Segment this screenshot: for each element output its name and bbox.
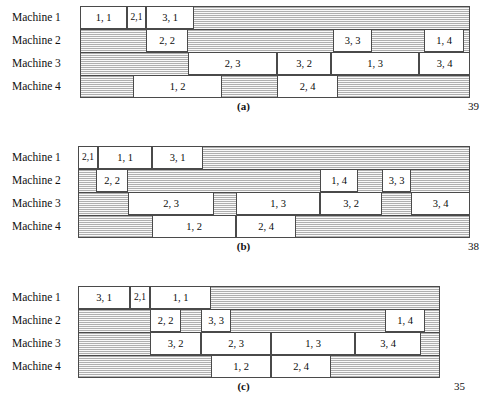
machine-row: Machine 32, 33, 21, 33, 4 (0, 52, 487, 75)
machine-row: Machine 22, 23, 31, 4 (0, 29, 487, 52)
panel-caption: (a) (0, 100, 487, 112)
makespan-value: 39 (468, 100, 479, 112)
machine-idle-track: 1, 22, 4 (78, 355, 440, 378)
operation-block: 1, 2 (152, 215, 236, 238)
operation-block: 2, 4 (271, 355, 331, 378)
machine-label: Machine 2 (0, 169, 72, 192)
operation-block: 1, 2 (211, 355, 271, 378)
operation-block: 2,1 (130, 286, 150, 309)
operation-block: 2, 4 (236, 215, 296, 238)
machine-idle-track: 1, 22, 4 (78, 215, 470, 238)
operation-block: 1, 4 (320, 169, 358, 192)
operation-block: 3, 3 (382, 169, 411, 192)
operation-block: 1, 3 (271, 332, 355, 355)
machine-label: Machine 4 (0, 355, 72, 378)
operation-block: 1, 1 (98, 146, 152, 169)
operation-block: 1, 3 (236, 192, 320, 215)
machine-label: Machine 2 (0, 29, 72, 52)
panel-caption-row: (b)38 (0, 238, 487, 258)
operation-block: 2, 2 (96, 169, 128, 192)
machine-idle-track: 2,11, 13, 1 (78, 146, 470, 169)
machine-label: Machine 1 (0, 6, 72, 29)
machine-label: Machine 1 (0, 286, 72, 309)
machine-row: Machine 12,11, 13, 1 (0, 146, 487, 169)
machine-rows: Machine 13, 12,11, 1Machine 22, 23, 31, … (0, 286, 487, 378)
operation-block: 3, 2 (277, 52, 331, 75)
operation-block: 3, 4 (355, 332, 421, 355)
gantt-figure-page: Machine 11, 12,13, 1Machine 22, 23, 31, … (0, 0, 487, 420)
machine-row: Machine 13, 12,11, 1 (0, 286, 487, 309)
operation-block: 2, 3 (201, 332, 271, 355)
machine-idle-track: 1, 22, 4 (80, 75, 470, 98)
machine-idle-track: 1, 12,13, 1 (80, 6, 470, 29)
operation-block: 3, 1 (146, 6, 194, 29)
machine-idle-track: 2, 23, 31, 4 (80, 29, 470, 52)
machine-rows: Machine 11, 12,13, 1Machine 22, 23, 31, … (0, 6, 487, 98)
operation-block: 2, 3 (128, 192, 214, 215)
operation-block: 3, 2 (150, 332, 201, 355)
operation-block: 1, 2 (133, 75, 222, 98)
panel-caption: (b) (0, 240, 487, 252)
operation-block: 2, 3 (188, 52, 277, 75)
machine-label: Machine 4 (0, 215, 72, 238)
operation-block: 2, 2 (150, 309, 181, 332)
machine-idle-track: 2, 31, 33, 23, 4 (78, 192, 470, 215)
operation-block: 1, 3 (331, 52, 419, 75)
machine-row: Machine 22, 21, 43, 3 (0, 169, 487, 192)
machine-row: Machine 41, 22, 4 (0, 75, 487, 98)
operation-block: 2,1 (78, 146, 98, 169)
machine-row: Machine 11, 12,13, 1 (0, 6, 487, 29)
machine-idle-track: 2, 23, 31, 4 (78, 309, 440, 332)
gantt-panel-b: Machine 12,11, 13, 1Machine 22, 21, 43, … (0, 146, 487, 258)
machine-row: Machine 41, 22, 4 (0, 355, 487, 378)
panel-caption: (c) (0, 380, 487, 392)
machine-label: Machine 1 (0, 146, 72, 169)
machine-label: Machine 3 (0, 192, 72, 215)
machine-idle-track: 3, 22, 31, 33, 4 (78, 332, 440, 355)
operation-block: 3, 1 (78, 286, 130, 309)
operation-block: 3, 3 (201, 309, 231, 332)
machine-row: Machine 22, 23, 31, 4 (0, 309, 487, 332)
operation-block: 3, 4 (419, 52, 470, 75)
gantt-panel-c: Machine 13, 12,11, 1Machine 22, 23, 31, … (0, 286, 487, 398)
operation-block: 2, 2 (146, 29, 188, 52)
operation-block: 3, 4 (411, 192, 470, 215)
makespan-value: 35 (454, 380, 465, 392)
gantt-panel-a: Machine 11, 12,13, 1Machine 22, 23, 31, … (0, 6, 487, 118)
operation-block: 3, 3 (333, 29, 372, 52)
operation-block: 2,1 (127, 6, 146, 29)
machine-rows: Machine 12,11, 13, 1Machine 22, 21, 43, … (0, 146, 487, 238)
machine-label: Machine 3 (0, 52, 72, 75)
machine-row: Machine 32, 31, 33, 23, 4 (0, 192, 487, 215)
machine-idle-track: 2, 33, 21, 33, 4 (80, 52, 470, 75)
machine-label: Machine 3 (0, 332, 72, 355)
machine-idle-track: 2, 21, 43, 3 (78, 169, 470, 192)
machine-row: Machine 41, 22, 4 (0, 215, 487, 238)
machine-idle-track: 3, 12,11, 1 (78, 286, 440, 309)
operation-block: 3, 2 (320, 192, 382, 215)
operation-block: 1, 4 (424, 29, 464, 52)
panel-caption-row: (a)39 (0, 98, 487, 118)
operation-block: 3, 1 (152, 146, 203, 169)
operation-block: 1, 1 (150, 286, 211, 309)
makespan-value: 38 (468, 240, 479, 252)
machine-row: Machine 33, 22, 31, 33, 4 (0, 332, 487, 355)
operation-block: 2, 4 (277, 75, 338, 98)
panel-caption-row: (c)35 (0, 378, 487, 398)
machine-label: Machine 2 (0, 309, 72, 332)
operation-block: 1, 1 (80, 6, 127, 29)
operation-block: 1, 4 (385, 309, 425, 332)
machine-label: Machine 4 (0, 75, 72, 98)
